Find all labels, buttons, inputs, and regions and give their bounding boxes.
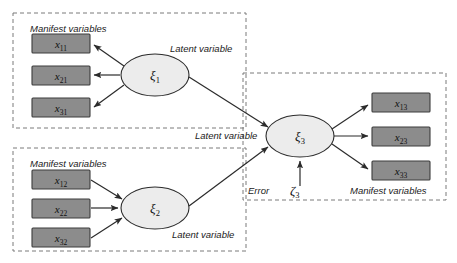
error-symbol-zeta3: ζ3 xyxy=(290,183,300,200)
loading-arrow-xi3-x33 xyxy=(332,144,368,169)
error-label: Error xyxy=(248,185,270,196)
latent-variable-label-xi2-lower: Latent variable xyxy=(172,229,234,240)
loading-arrow-xi1-x31 xyxy=(94,85,124,107)
diagram-canvas: Manifest variables x11 x21 x31 ξ1 Latent… xyxy=(0,0,457,263)
weight-arrow-x12-xi2 xyxy=(91,180,122,199)
structural-path-xi2-xi3 xyxy=(189,147,268,206)
sem-path-diagram: Manifest variables x11 x21 x31 ξ1 Latent… xyxy=(0,0,457,263)
loading-arrow-xi3-x13 xyxy=(332,105,368,129)
manifest-label-bottom-left: Manifest variables xyxy=(30,158,107,169)
weight-arrow-x32-xi2 xyxy=(91,218,122,238)
manifest-label-top-left: Manifest variables xyxy=(30,23,107,34)
latent-variable-label-xi3: Latent variable xyxy=(195,130,257,141)
manifest-label-right: Manifest variables xyxy=(350,185,427,196)
structural-path-xi1-xi3 xyxy=(189,77,268,127)
loading-arrow-xi1-x11 xyxy=(94,45,124,66)
latent-variable-label-xi1: Latent variable xyxy=(170,43,232,54)
